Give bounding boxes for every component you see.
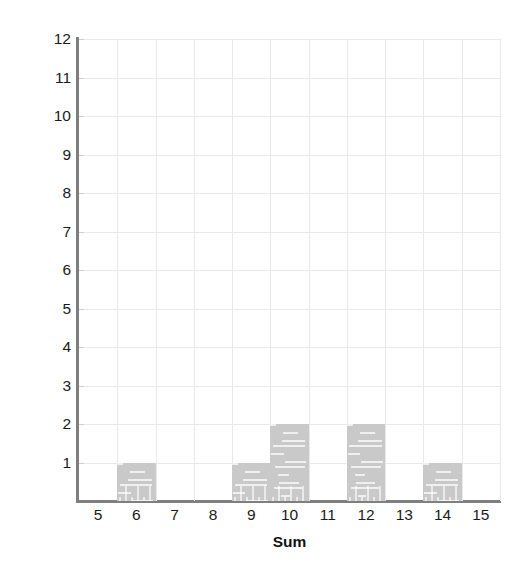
bar-texture [302, 486, 304, 501]
bar-texture [252, 486, 254, 501]
bar-texture [356, 482, 375, 484]
bar-texture [125, 486, 127, 501]
x-tick-label: 15 [461, 506, 501, 524]
y-tick-mark [79, 232, 84, 233]
bar-texture [258, 497, 260, 501]
gridline-vertical [117, 39, 118, 501]
bar [270, 424, 308, 501]
x-tick-label: 8 [193, 506, 233, 524]
bar-texture [455, 486, 457, 501]
bar-texture [358, 440, 382, 442]
bar-texture [271, 453, 284, 455]
x-axis-title: Sum [79, 533, 500, 551]
bar-texture [423, 463, 429, 465]
bar-texture [278, 474, 289, 476]
x-tick-label: 9 [231, 506, 271, 524]
gridline-horizontal [79, 78, 500, 79]
gridline-vertical [309, 39, 310, 501]
bar-texture [273, 445, 305, 447]
y-tick-label: 1 [37, 455, 71, 471]
bar-texture [118, 492, 131, 494]
bar-texture [437, 497, 439, 501]
bar-texture [130, 471, 145, 473]
gridline-vertical [385, 39, 386, 501]
y-tick-mark [79, 116, 84, 117]
bar-texture [245, 471, 260, 473]
y-tick-mark [79, 78, 84, 79]
bar [423, 463, 461, 502]
bar-texture [296, 497, 298, 501]
bar [232, 463, 270, 502]
bar-texture [246, 497, 248, 501]
bar-texture [425, 497, 427, 501]
x-tick-label: 13 [384, 506, 424, 524]
bar-texture [234, 497, 236, 501]
bar-texture [290, 486, 292, 501]
bar-texture [285, 461, 306, 463]
gridline-horizontal [79, 309, 500, 310]
gridline-vertical [232, 39, 233, 501]
y-tick-label: 6 [37, 262, 71, 278]
bar-texture [275, 466, 305, 468]
bar-texture [282, 440, 306, 442]
bar-texture [283, 432, 298, 434]
bar-texture [264, 486, 266, 501]
y-tick-mark [79, 386, 84, 387]
bar-texture [149, 486, 151, 501]
bar-texture [272, 497, 274, 501]
bar-texture [435, 479, 459, 481]
y-tick-label: 7 [37, 224, 71, 240]
x-tick-label: 6 [116, 506, 156, 524]
bar-texture [279, 482, 298, 484]
y-axis-title: Number of times sum was rolled [0, 0, 28, 570]
x-tick-label: 14 [423, 506, 463, 524]
bar-texture [243, 479, 267, 481]
x-tick-label: 12 [346, 506, 386, 524]
bar-texture [431, 486, 433, 501]
y-tick-label: 10 [37, 108, 71, 124]
bar [117, 463, 155, 502]
bar-texture [131, 497, 133, 501]
y-tick-mark [79, 155, 84, 156]
bar-texture [355, 486, 357, 501]
bar-texture [233, 492, 246, 494]
bar-texture [232, 463, 238, 465]
bar-texture [443, 486, 445, 501]
y-tick-label: 5 [37, 301, 71, 317]
gridline-vertical [462, 39, 463, 501]
bar-texture [349, 445, 381, 447]
bar-texture [117, 463, 123, 465]
x-tick-label: 10 [270, 506, 310, 524]
y-tick-mark [79, 347, 84, 348]
bar-texture [424, 492, 437, 494]
gridline-horizontal [79, 347, 500, 348]
y-tick-label: 8 [37, 185, 71, 201]
gridline-vertical [156, 39, 157, 501]
bar-texture [284, 497, 286, 501]
bar [347, 424, 385, 501]
bar-texture [348, 453, 361, 455]
y-tick-label: 2 [37, 416, 71, 432]
bar-texture [379, 486, 381, 501]
gridline-horizontal [79, 232, 500, 233]
bar-texture [351, 466, 381, 468]
y-tick-mark [79, 39, 84, 40]
bar-texture [373, 497, 375, 501]
y-tick-label: 4 [37, 339, 71, 355]
bar-texture [449, 497, 451, 501]
gridline-horizontal [79, 270, 500, 271]
y-tick-label: 11 [37, 70, 71, 86]
gridline-vertical [500, 39, 501, 501]
gridline-horizontal [79, 116, 500, 117]
gridline-horizontal [79, 155, 500, 156]
bar-texture [349, 497, 351, 501]
bar-texture [278, 486, 280, 501]
bar-chart-figure: Number of times sum was rolled 123456789… [0, 0, 528, 570]
bar-texture [367, 486, 369, 501]
y-tick-mark [79, 309, 84, 310]
gridline-horizontal [79, 193, 500, 194]
bar-texture [270, 424, 276, 426]
y-tick-mark [79, 193, 84, 194]
y-tick-label: 9 [37, 147, 71, 163]
bar-texture [355, 474, 366, 476]
